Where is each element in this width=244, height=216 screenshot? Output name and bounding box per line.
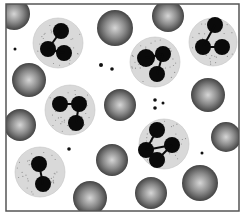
granule <box>85 113 86 114</box>
granule <box>75 94 76 95</box>
granule <box>72 38 73 39</box>
granule <box>177 158 178 159</box>
granule <box>202 38 203 39</box>
granule <box>210 61 211 62</box>
granule <box>133 56 134 57</box>
neutrophil <box>33 18 83 68</box>
granule <box>198 33 199 34</box>
granule <box>51 155 52 156</box>
granule <box>209 58 210 59</box>
granule <box>175 63 176 64</box>
granule <box>210 64 211 65</box>
red-blood-cell <box>4 109 36 141</box>
granule <box>56 171 57 172</box>
red-blood-cell <box>104 89 136 121</box>
platelet <box>162 102 165 105</box>
granule <box>71 39 72 40</box>
granule <box>52 125 53 126</box>
granule <box>25 175 26 176</box>
red-blood-cell <box>73 181 107 215</box>
granule <box>22 172 23 173</box>
granule <box>44 33 45 34</box>
granule <box>134 62 135 63</box>
granule <box>59 65 60 66</box>
granule <box>53 63 54 64</box>
granule <box>165 67 166 68</box>
granule <box>50 29 51 30</box>
granule <box>205 23 206 24</box>
granule <box>146 137 147 138</box>
platelet <box>67 147 71 151</box>
neutrophil <box>130 37 180 87</box>
granule <box>69 60 70 61</box>
granule <box>132 55 133 56</box>
granule <box>87 94 88 95</box>
granule <box>60 123 61 124</box>
granule <box>61 121 62 122</box>
granule <box>171 77 172 78</box>
granule <box>140 67 141 68</box>
granule <box>147 133 148 134</box>
granule <box>132 67 133 68</box>
granule <box>214 56 215 57</box>
granule <box>52 114 53 115</box>
granule <box>204 33 205 34</box>
platelet <box>153 98 157 102</box>
granule <box>150 43 151 44</box>
granule <box>160 39 161 40</box>
granule <box>211 55 212 56</box>
granule <box>164 121 165 122</box>
granule <box>29 164 30 165</box>
granule <box>54 173 55 174</box>
granule <box>138 64 139 65</box>
granule <box>174 72 175 73</box>
granule <box>172 58 173 59</box>
granule <box>22 176 23 177</box>
granule <box>53 180 54 181</box>
granule <box>51 181 52 182</box>
granule <box>27 178 28 179</box>
granule <box>19 162 20 163</box>
granule <box>201 23 202 24</box>
neutrophil <box>15 147 65 197</box>
smear-canvas <box>0 0 244 216</box>
granule <box>169 67 170 68</box>
granule <box>231 32 232 33</box>
granule <box>182 139 183 140</box>
granule <box>171 126 172 127</box>
granule <box>206 55 207 56</box>
granule <box>215 62 216 63</box>
granule <box>60 117 61 118</box>
platelet <box>110 67 114 71</box>
granule <box>69 63 70 64</box>
granule <box>147 159 148 160</box>
platelet <box>14 48 17 51</box>
blood-smear-illustration <box>0 0 244 216</box>
platelet <box>99 63 103 67</box>
granule <box>53 176 54 177</box>
granule <box>89 117 90 118</box>
granule <box>185 138 186 139</box>
granule <box>135 68 136 69</box>
granule <box>41 36 42 37</box>
granule <box>142 81 143 82</box>
granule <box>232 54 233 55</box>
red-blood-cell <box>211 122 241 152</box>
granule <box>18 177 19 178</box>
granule <box>175 155 176 156</box>
granule <box>31 191 32 192</box>
platelet <box>153 106 157 110</box>
granule <box>227 56 228 57</box>
granule <box>227 24 228 25</box>
granule <box>27 160 28 161</box>
granule <box>51 32 52 33</box>
granule <box>73 47 74 48</box>
granule <box>62 131 63 132</box>
red-blood-cell <box>12 63 46 97</box>
granule <box>176 124 177 125</box>
granule <box>79 34 80 35</box>
granule <box>192 37 193 38</box>
granule <box>146 140 147 141</box>
granule <box>192 47 193 48</box>
granule <box>55 159 56 160</box>
